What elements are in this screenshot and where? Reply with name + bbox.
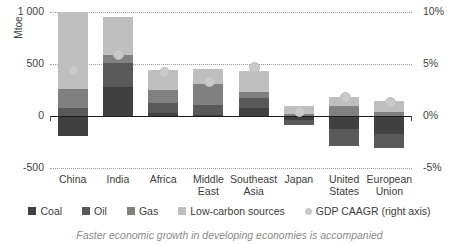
gdp-caagr-marker[interactable] xyxy=(249,62,260,73)
legend-item-oil[interactable]: Oil xyxy=(82,205,107,217)
bar-group[interactable] xyxy=(374,12,404,168)
bar-segment[interactable] xyxy=(284,120,314,125)
bar-segment[interactable] xyxy=(103,87,133,116)
bar-segment[interactable] xyxy=(58,108,88,116)
figure-caption: Faster economic growth in developing eco… xyxy=(0,229,459,241)
bar-group[interactable] xyxy=(58,12,88,168)
legend-label: Gas xyxy=(139,205,158,217)
legend-label: Coal xyxy=(40,205,62,217)
gdp-caagr-marker[interactable] xyxy=(385,97,396,108)
legend-label: Oil xyxy=(94,205,107,217)
x-axis-tick-label: Asia xyxy=(218,186,290,198)
legend-square-icon xyxy=(82,207,90,215)
bar-segment[interactable] xyxy=(374,116,404,134)
bar-segment[interactable] xyxy=(239,92,269,98)
legend-square-icon xyxy=(178,207,186,215)
gdp-caagr-marker[interactable] xyxy=(340,92,351,103)
axis-tick-mark xyxy=(50,116,51,121)
legend-square-icon xyxy=(127,207,135,215)
bar-segment[interactable] xyxy=(374,134,404,148)
y-axis-tick-label: 1 000 xyxy=(0,5,44,17)
chart-legend: CoalOilGasLow-carbon sourcesGDP CAAGR (r… xyxy=(0,203,459,219)
legend-circle-icon xyxy=(305,208,312,215)
bar-group[interactable] xyxy=(103,12,133,168)
bar-segment[interactable] xyxy=(329,116,359,129)
bar-group[interactable] xyxy=(284,12,314,168)
x-axis-tick-label: Union xyxy=(353,186,425,198)
bar-group[interactable] xyxy=(193,12,223,168)
secondary-y-axis-tick-label: 10% xyxy=(423,5,457,17)
legend-item-low-carbon-sources[interactable]: Low-carbon sources xyxy=(178,205,285,217)
legend-item-gdp-caagr-right-axis[interactable]: GDP CAAGR (right axis) xyxy=(305,205,431,217)
x-axis-tick-label: European xyxy=(353,174,425,186)
bar-group[interactable] xyxy=(239,12,269,168)
gdp-caagr-marker[interactable] xyxy=(159,67,170,78)
zero-axis-line xyxy=(50,116,412,117)
bar-segment[interactable] xyxy=(329,129,359,146)
legend-label: Low-carbon sources xyxy=(190,205,285,217)
y-axis-tick-label: 0 xyxy=(0,109,44,121)
bar-segment[interactable] xyxy=(193,105,223,116)
gdp-caagr-marker[interactable] xyxy=(204,76,215,87)
x-axis-category: EuropeanUnion xyxy=(353,174,425,197)
legend-label: GDP CAAGR (right axis) xyxy=(316,205,431,217)
bar-segment[interactable] xyxy=(193,84,223,104)
bar-segment[interactable] xyxy=(239,98,269,108)
chart-figure: Mtoe 1 0005000-500 10%5%0%-5% ChinaIndia… xyxy=(0,0,459,244)
secondary-y-axis-tick-label: 5% xyxy=(423,57,457,69)
axis-tick-mark xyxy=(411,116,412,121)
legend-item-coal[interactable]: Coal xyxy=(28,205,62,217)
bar-segment[interactable] xyxy=(148,103,178,113)
bar-segment[interactable] xyxy=(58,116,88,136)
bar-segment[interactable] xyxy=(58,12,88,89)
bar-segment[interactable] xyxy=(239,71,269,92)
bar-segment[interactable] xyxy=(103,63,133,87)
y-axis-tick-label: 500 xyxy=(0,57,44,69)
bar-segment[interactable] xyxy=(239,108,269,116)
y-axis-tick-label: -500 xyxy=(0,161,44,173)
bar-group[interactable] xyxy=(148,12,178,168)
bar-group[interactable] xyxy=(329,12,359,168)
secondary-y-axis-tick-label: -5% xyxy=(423,161,457,173)
plot-area xyxy=(50,12,412,168)
gdp-caagr-marker[interactable] xyxy=(68,65,79,76)
bar-segment[interactable] xyxy=(329,106,359,116)
bar-segment[interactable] xyxy=(58,89,88,107)
bar-segment[interactable] xyxy=(148,90,178,103)
gridline xyxy=(50,168,412,169)
legend-item-gas[interactable]: Gas xyxy=(127,205,158,217)
secondary-y-axis-tick-label: 0% xyxy=(423,109,457,121)
legend-square-icon xyxy=(28,207,36,215)
